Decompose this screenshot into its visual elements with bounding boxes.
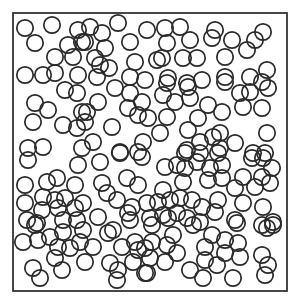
circle-particle: [182, 90, 198, 106]
circle-particle: [104, 119, 120, 135]
circle-particle: [94, 175, 110, 191]
circle-particle: [107, 80, 123, 96]
circle-particle: [77, 254, 93, 270]
circle-particle: [122, 69, 138, 85]
circle-particle: [54, 262, 70, 278]
particle-diagram: [0, 0, 300, 304]
circle-particle: [135, 134, 151, 150]
circle-particle: [259, 125, 275, 141]
circle-particle: [47, 65, 63, 81]
circle-particle: [112, 145, 128, 161]
circle-particle: [70, 157, 86, 173]
circle-particle: [264, 160, 280, 176]
circle-particle: [20, 152, 36, 168]
circle-particle: [157, 159, 173, 175]
circle-particle: [152, 125, 168, 141]
circle-particle: [27, 35, 43, 51]
circle-particle: [49, 170, 65, 186]
circle-particle: [257, 267, 273, 283]
circle-particle: [157, 254, 173, 270]
circle-particle: [134, 149, 150, 165]
circle-particle: [90, 94, 106, 110]
circle-particle: [242, 84, 258, 100]
circle-particle: [97, 40, 113, 56]
circle-particle: [35, 67, 51, 83]
circle-particle: [142, 250, 158, 266]
circle-particle: [157, 20, 173, 36]
circle-particle: [17, 67, 33, 83]
circle-particle: [25, 114, 41, 130]
circle-particle: [69, 85, 85, 101]
circle-particle: [130, 144, 146, 160]
circle-particle: [159, 35, 175, 51]
circle-particle: [122, 34, 138, 50]
circle-particle: [210, 192, 226, 208]
circle-particle: [254, 100, 270, 116]
circle-particle: [139, 22, 155, 38]
circle-particle: [70, 67, 86, 83]
circle-particle: [15, 234, 31, 250]
circle-particle: [255, 150, 271, 166]
circle-particle: [140, 110, 156, 126]
circle-particle: [154, 50, 170, 66]
circle-particle: [195, 270, 211, 286]
circle-particle: [224, 32, 240, 48]
circle-particle: [35, 139, 51, 155]
circle-particle: [235, 195, 251, 211]
diagram-canvas: [0, 0, 300, 304]
circle-particle: [90, 209, 106, 225]
circle-particle: [17, 177, 33, 193]
circle-particle: [239, 42, 255, 58]
circle-particle: [217, 245, 233, 261]
circle-particle: [137, 72, 153, 88]
circle-particle: [44, 17, 60, 33]
circle-particle: [127, 54, 143, 70]
circle-particle: [227, 180, 243, 196]
circle-particle: [227, 135, 243, 151]
circle-particle: [40, 102, 56, 118]
circle-particle: [144, 234, 160, 250]
circle-particle: [255, 199, 271, 215]
circle-particle: [101, 60, 117, 76]
circle-group: [15, 15, 281, 288]
circle-particle: [17, 20, 33, 36]
circle-particle: [197, 239, 213, 255]
circle-particle: [110, 15, 126, 31]
circle-particle: [214, 104, 230, 120]
circle-particle: [109, 272, 125, 288]
circle-particle: [217, 49, 233, 65]
circle-particle: [159, 109, 175, 125]
circle-particle: [89, 69, 105, 85]
circle-particle: [17, 195, 33, 211]
circle-particle: [30, 232, 46, 248]
circle-particle: [225, 270, 241, 286]
circle-particle: [47, 250, 63, 266]
circle-particle: [167, 94, 183, 110]
circle-particle: [172, 190, 188, 206]
circle-particle: [39, 174, 55, 190]
circle-particle: [57, 82, 73, 98]
circle-particle: [92, 154, 108, 170]
circle-particle: [122, 85, 138, 101]
circle-particle: [169, 245, 185, 261]
circle-particle: [47, 49, 63, 65]
circle-particle: [100, 225, 116, 241]
circle-particle: [182, 32, 198, 48]
